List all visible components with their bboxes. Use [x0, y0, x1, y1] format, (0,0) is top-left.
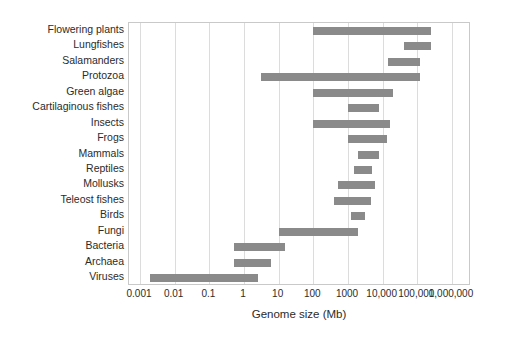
category-label: Salamanders	[0, 55, 124, 66]
x-axis-tick-labels: 0.0010.010.1110100100010,000100,0001,000…	[0, 288, 511, 302]
x-tick-label: 1	[240, 288, 246, 299]
x-tick-label: 0.1	[201, 288, 215, 299]
x-axis-title: Genome size (Mb)	[128, 308, 470, 320]
x-tick-label: 1,000,000	[429, 288, 474, 299]
category-label: Insects	[0, 117, 124, 128]
range-bar	[388, 58, 420, 66]
category-label: Fungi	[0, 225, 124, 236]
range-bar	[348, 104, 379, 112]
range-bar	[261, 73, 421, 81]
category-label: Mollusks	[0, 178, 124, 189]
range-bar	[279, 228, 359, 236]
x-tick-label: 10	[272, 288, 283, 299]
category-label: Protozoa	[0, 70, 124, 81]
plot-area	[128, 22, 470, 285]
range-bar	[313, 120, 389, 128]
category-label: Teleost fishes	[0, 194, 124, 205]
category-label: Bacteria	[0, 240, 124, 251]
bar-series	[129, 23, 469, 284]
category-label: Archaea	[0, 256, 124, 267]
x-tick-label: 10,000	[366, 288, 397, 299]
category-label: Green algae	[0, 86, 124, 97]
range-bar	[150, 274, 257, 282]
category-label: Reptiles	[0, 163, 124, 174]
x-tick-label: 0.01	[164, 288, 183, 299]
category-label: Cartilaginous fishes	[0, 101, 124, 112]
category-label: Flowering plants	[0, 24, 124, 35]
range-bar	[358, 151, 379, 159]
range-bar	[234, 243, 285, 251]
range-bar	[313, 27, 431, 35]
x-tick-label: 100	[304, 288, 321, 299]
category-label: Frogs	[0, 132, 124, 143]
x-tick-label: 1000	[336, 288, 358, 299]
range-bar	[313, 89, 393, 97]
category-label: Lungfishes	[0, 39, 124, 50]
range-bar	[348, 135, 387, 143]
category-label: Mammals	[0, 148, 124, 159]
category-label: Birds	[0, 209, 124, 220]
genome-size-chart: Flowering plantsLungfishesSalamandersPro…	[0, 0, 511, 338]
range-bar	[354, 166, 372, 174]
range-bar	[404, 42, 432, 50]
x-tick-label: 0.001	[126, 288, 151, 299]
category-axis-labels: Flowering plantsLungfishesSalamandersPro…	[0, 22, 124, 285]
range-bar	[334, 197, 370, 205]
range-bar	[234, 259, 271, 267]
range-bar	[338, 181, 375, 189]
category-label: Viruses	[0, 271, 124, 282]
range-bar	[351, 212, 365, 220]
